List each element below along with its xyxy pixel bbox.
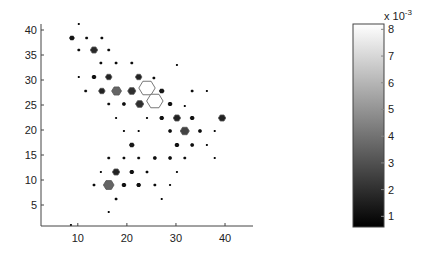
hexbin-cell xyxy=(180,127,189,134)
hexbin-cell xyxy=(107,103,110,106)
hexbin-cell xyxy=(78,76,80,78)
x-tick-label: 40 xyxy=(219,232,231,244)
hexbin-cell xyxy=(99,88,106,93)
hexbin-cell xyxy=(198,129,202,132)
hexbin-cell xyxy=(191,90,194,93)
x-tick-label: 10 xyxy=(72,232,84,244)
hexbin-cell xyxy=(99,62,102,65)
hexbin-cell xyxy=(218,115,225,121)
chart-canvas: 10203040 510152025303540 12345678 x 10-3 xyxy=(0,0,437,256)
colorbar-exponent-label: x 10-3 xyxy=(384,8,412,22)
colorbar-tick-label: 8 xyxy=(388,23,394,35)
hexbin-cell xyxy=(135,74,142,79)
hexbin-cell xyxy=(176,171,178,173)
colorbar-gradient xyxy=(353,24,384,227)
y-tick-label: 20 xyxy=(25,124,37,136)
hexbin-cell xyxy=(129,143,135,148)
hexbin-cell xyxy=(122,102,126,105)
hexbin-cell xyxy=(169,184,171,186)
colorbar: 12345678 x 10-3 xyxy=(353,8,412,227)
hexbin-cell xyxy=(146,117,148,119)
y-tick-label: 5 xyxy=(31,199,37,211)
hexbin-layer xyxy=(69,23,226,226)
hexbin-cell xyxy=(69,36,75,41)
hexbin-cell xyxy=(92,184,95,187)
hexbin-cell xyxy=(137,157,140,160)
hexbin-cell xyxy=(173,115,180,121)
hexbin-cell xyxy=(159,116,164,120)
y-tick-label: 25 xyxy=(25,99,37,111)
hexbin-cell xyxy=(103,181,114,190)
hexbin-cell xyxy=(129,170,134,174)
hexbin-cell xyxy=(153,156,157,159)
hexbin-cell xyxy=(100,171,102,173)
y-tick-label: 30 xyxy=(25,74,37,86)
hexbin-cell xyxy=(190,116,195,120)
hexbin-cell xyxy=(92,75,97,79)
hexbin-cell xyxy=(108,211,110,213)
hexbin-cell xyxy=(174,143,179,147)
hexbin-cell xyxy=(153,184,156,187)
hexbin-cell xyxy=(139,81,155,95)
hexbin-cell xyxy=(115,117,117,119)
colorbar-tick-label: 4 xyxy=(388,130,394,142)
colorbar-tick-label: 3 xyxy=(388,157,394,169)
hexbin-cell xyxy=(161,198,163,200)
hexbin-cell xyxy=(190,143,194,146)
y-tick-label: 10 xyxy=(25,174,37,186)
y-tick-label: 35 xyxy=(25,49,37,61)
hexbin-cell xyxy=(121,183,126,187)
hexbin-cell xyxy=(206,144,208,146)
hexbin-cell xyxy=(145,171,148,174)
x-tick-label: 20 xyxy=(121,232,133,244)
hexbin-cell xyxy=(112,87,122,95)
colorbar-tick-label: 2 xyxy=(388,184,394,196)
hexbin-cell xyxy=(137,130,139,132)
hexbin-cell xyxy=(107,49,110,52)
hexbin-cell xyxy=(214,157,216,159)
hexbin-cell xyxy=(123,130,125,132)
hexbin-cell xyxy=(136,183,141,187)
hexbin-cell xyxy=(78,23,80,25)
hexbin-cell xyxy=(114,198,117,201)
x-tick-label: 30 xyxy=(170,232,182,244)
hexbin-cell xyxy=(136,101,144,108)
hexbin-figure: 10203040 510152025303540 12345678 x 10-3 xyxy=(0,0,437,256)
hexbin-cell xyxy=(85,37,88,40)
hexbin-cell xyxy=(90,47,97,53)
hexbin-cell xyxy=(122,157,125,160)
plot-area: 10203040 510152025303540 xyxy=(25,23,253,244)
hexbin-cell xyxy=(168,129,172,132)
colorbar-tick-label: 5 xyxy=(388,103,394,115)
hexbin-cell xyxy=(184,105,186,107)
hexbin-cell xyxy=(77,49,80,52)
hexbin-cell xyxy=(176,64,178,66)
hexbin-cell xyxy=(84,90,87,93)
colorbar-tick-label: 1 xyxy=(388,210,394,222)
y-tick-label: 40 xyxy=(25,24,37,36)
colorbar-tick-label: 7 xyxy=(388,50,394,62)
colorbar-tick-label: 6 xyxy=(388,77,394,89)
hexbin-cell xyxy=(147,94,163,108)
hexbin-cell xyxy=(152,77,155,80)
hexbin-cell xyxy=(130,62,133,65)
hexbin-cell xyxy=(168,102,173,106)
hexbin-cell xyxy=(168,156,172,159)
axes: 10203040 510152025303540 xyxy=(25,24,253,244)
hexbin-cell xyxy=(100,37,103,40)
hexbin-cell xyxy=(159,89,165,94)
hexbin-cell xyxy=(105,74,112,79)
hexbin-cell xyxy=(206,90,208,92)
hexbin-cell xyxy=(112,169,119,175)
hexbin-cell xyxy=(128,88,136,95)
hexbin-cell xyxy=(214,130,216,132)
y-tick-label: 15 xyxy=(25,149,37,161)
hexbin-cell xyxy=(114,62,117,65)
hexbin-cell xyxy=(107,157,110,160)
hexbin-cell xyxy=(183,157,186,160)
